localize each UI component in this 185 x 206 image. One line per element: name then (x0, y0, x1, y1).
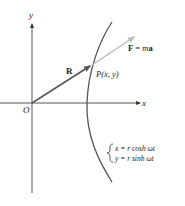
equation-brace (107, 144, 113, 162)
force-accel-symbol: a (148, 43, 153, 53)
point-p-label: P(x, y) (95, 69, 119, 79)
equation-x: x = r cosh ωt (114, 144, 156, 153)
x-axis-label: x (141, 98, 146, 108)
force-equation-label: F = ma (128, 43, 153, 53)
y-axis-label: y (28, 10, 33, 20)
equation-y: y = r sinh ωt (114, 154, 155, 163)
vector-r-label: R (66, 66, 73, 76)
origin-label: O (23, 105, 30, 115)
hyperbola-force-diagram: y x O R P(x, y) F = ma x = r cosh ωt y =… (0, 0, 185, 206)
position-vector-r (32, 66, 90, 103)
hyperbola-curve (87, 22, 112, 182)
force-equals: = (133, 43, 142, 53)
